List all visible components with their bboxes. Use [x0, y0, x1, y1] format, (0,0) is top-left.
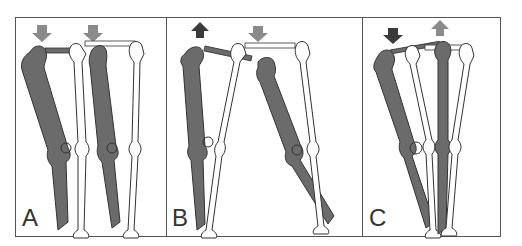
panel-label-c: C [369, 204, 386, 232]
arrow-down-icon [248, 26, 268, 42]
arrow-down-icon [383, 28, 403, 44]
panel-b-illustration [181, 22, 334, 238]
arrow-up-icon [191, 22, 209, 38]
panel-c-illustration [374, 20, 474, 238]
panel-label-a: A [22, 204, 38, 232]
arrow-down-icon [83, 25, 103, 42]
panel-label-b: B [172, 204, 188, 232]
skeleton-illustration [0, 0, 522, 246]
arrow-down-icon [32, 25, 52, 42]
panel-a-illustration [21, 25, 144, 238]
arrow-up-icon [431, 20, 449, 36]
